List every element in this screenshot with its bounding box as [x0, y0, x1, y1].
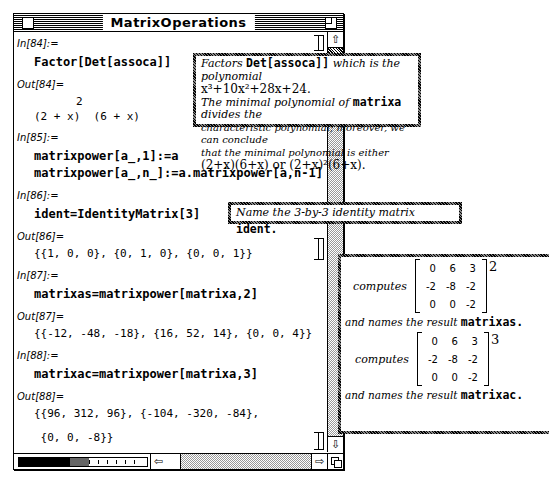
matrix-a: 063 -2-8-2 00-2: [415, 259, 487, 313]
group-bracket[interactable]: [319, 238, 324, 260]
matrix-cell: -2: [463, 350, 483, 368]
magnification-bar[interactable]: [18, 457, 148, 467]
input-84[interactable]: Factor[Det[assoca]]: [34, 55, 171, 69]
matrix-cell: -2: [421, 277, 441, 295]
matrix-cell: -2: [423, 350, 443, 368]
zoom-box[interactable]: [325, 17, 337, 29]
callout-text: computes: [355, 353, 409, 366]
scroll-left-arrow-icon[interactable]: ⇦: [150, 454, 167, 469]
matrix-cell: 3: [463, 332, 483, 350]
matrix-cell: -2: [461, 277, 481, 295]
in-label-87: In[87]:=: [17, 270, 59, 281]
input-86[interactable]: ident=IdentityMatrix[3]: [34, 207, 200, 221]
out-label-86: Out[86]=: [17, 231, 64, 242]
matrix-exponent: 2: [489, 259, 497, 274]
callout-text: or: [272, 158, 285, 172]
matrix-cell: 0: [423, 368, 443, 386]
in-label-85: In[85]:=: [17, 132, 59, 143]
matrix-cell: -8: [441, 277, 461, 295]
matrix-power-callout: computes 063 -2-8-2 00-2 2 and names the…: [338, 254, 549, 434]
callout-text: divides the: [201, 108, 262, 121]
output-86: {{1, 0, 0}, {0, 1, 0}, {0, 0, 1}}: [34, 247, 253, 260]
output-88-line-2: {0, 0, -8}}: [34, 431, 113, 444]
output-84-exponent: 2: [76, 95, 83, 108]
matrix-cell: 0: [421, 295, 441, 313]
horizontal-scroll-track[interactable]: [181, 454, 311, 469]
in-label-84: In[84]:=: [17, 38, 59, 49]
matrix-a: 063 -2-8-2 00-2: [417, 332, 489, 386]
in-label-86: In[86]:=: [17, 190, 59, 201]
group-bracket[interactable]: [319, 432, 324, 450]
output-84: (2 + x) (6 + x): [34, 110, 140, 123]
horizontal-scrollbar[interactable]: ⇦ ⇨: [14, 453, 327, 469]
matrix-cell: -2: [461, 295, 481, 313]
factor-callout: Factors Det[assoca]] which is the polyno…: [193, 53, 421, 127]
callout-text: and names the result: [345, 316, 458, 328]
matrix-cell: 0: [441, 295, 461, 313]
matrix-cell: 0: [421, 259, 441, 277]
close-box[interactable]: [22, 17, 34, 29]
title-bar[interactable]: MatrixOperations: [14, 14, 343, 32]
matrix-cell: -2: [463, 368, 483, 386]
scroll-right-arrow-icon[interactable]: ⇨: [311, 454, 327, 469]
callout-text: that the minimal polynomial is either: [201, 147, 389, 158]
callout-text: Name the 3-by-3 identity matrix: [236, 206, 415, 219]
out-label-87: Out[87]=: [17, 311, 64, 322]
callout-code: matrixas.: [461, 315, 523, 329]
matrix-cell: 3: [461, 259, 481, 277]
in-label-88: In[88]:=: [17, 350, 59, 361]
callout-text: and names the result: [345, 389, 458, 401]
matrix-cell: 0: [423, 332, 443, 350]
callout-text: computes: [353, 280, 407, 293]
matrix-cell: 6: [441, 259, 461, 277]
callout-text: characteristic polynomial; moreover, we …: [201, 122, 405, 146]
group-bracket[interactable]: [319, 35, 324, 51]
scroll-down-arrow-icon[interactable]: ⇩: [328, 436, 343, 452]
resize-box-icon[interactable]: [327, 453, 343, 469]
callout-code: ident.: [236, 222, 278, 236]
matrix-cell: 6: [443, 332, 463, 350]
magnification-ticks: [89, 460, 143, 464]
minimal-polynomial-option-2: (2+x)²(6+x).: [289, 158, 365, 172]
callout-code: matrixa: [353, 95, 401, 109]
callout-code: matrixac.: [461, 388, 523, 402]
scroll-up-arrow-icon[interactable]: ⇧: [328, 32, 343, 48]
output-88-line-1: {{96, 312, 96}, {-104, -320, -84},: [34, 407, 259, 420]
out-label-88: Out[88]=: [17, 391, 64, 402]
horizontal-scroll-thumb[interactable]: [166, 454, 181, 469]
input-88[interactable]: matrixac=matrixpower[matrixa,3]: [34, 367, 258, 381]
matrix-cell: -8: [443, 350, 463, 368]
matrix-exponent: 3: [491, 332, 499, 347]
identity-callout: Name the 3-by-3 identity matrix ident.: [228, 202, 462, 224]
matrix-cell: 0: [443, 368, 463, 386]
minimal-polynomial-option-1: (2+x)(6+x): [201, 158, 269, 172]
callout-text: The minimal polynomial of: [201, 96, 349, 109]
input-87[interactable]: matrixas=matrixpower[matrixa,2]: [34, 287, 258, 301]
input-85-line-1[interactable]: matrixpower[a_,1]:=a: [34, 149, 179, 163]
out-label-84: Out[84]=: [17, 79, 64, 90]
callout-text: Factors: [201, 57, 243, 70]
output-87: {{-12, -48, -18}, {16, 52, 14}, {0, 0, 4…: [34, 327, 312, 340]
window-title: MatrixOperations: [102, 14, 254, 31]
callout-code: Det[assoca]]: [246, 56, 329, 70]
